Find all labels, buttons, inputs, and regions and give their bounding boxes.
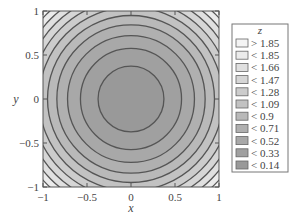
legend-label: < 1.28 [251,86,280,98]
y-tick-label: 0 [34,93,40,105]
y-tick-label: −0.5 [19,137,39,149]
legend-label: < 0.14 [251,159,280,171]
legend-swatch [236,100,248,108]
x-tick-label: 1 [216,191,222,203]
legend-label: < 1.85 [251,49,280,61]
y-axis-label: y [12,92,19,106]
legend-swatch [236,112,248,120]
legend-label: < 1.66 [251,61,280,73]
legend-label: < 1.47 [251,74,280,86]
x-axis-label: x [127,201,134,215]
legend-label: < 0.33 [251,147,280,159]
legend-swatch [236,39,248,47]
legend-label: < 0.71 [251,122,279,134]
y-tick-label: 0.5 [25,49,39,61]
x-tick-label: 0.5 [168,191,182,203]
legend-entries: > 1.85< 1.85< 1.66< 1.47< 1.28< 1.09< 0.… [236,37,280,171]
legend-swatch [236,124,248,132]
y-tick-label: −1 [27,181,39,193]
legend-title: z [257,24,263,36]
legend-label: < 0.52 [251,135,279,147]
legend-label: < 1.09 [251,98,280,110]
legend-label: < 0.9 [251,110,274,122]
y-tick-label: 1 [34,5,40,17]
legend-swatch [236,51,248,59]
legend-swatch [236,76,248,84]
legend: z > 1.85< 1.85< 1.66< 1.47< 1.28< 1.09< … [232,24,288,172]
legend-swatch [236,161,248,169]
legend-swatch [236,149,248,157]
legend-label: > 1.85 [251,37,280,49]
x-tick-label: −0.5 [77,191,97,203]
legend-swatch [236,88,248,96]
contour-plot: −1−0.500.5110.50−0.5−1 x y z > 1.85< 1.8… [0,0,301,224]
legend-swatch [236,63,248,71]
legend-swatch [236,137,248,145]
